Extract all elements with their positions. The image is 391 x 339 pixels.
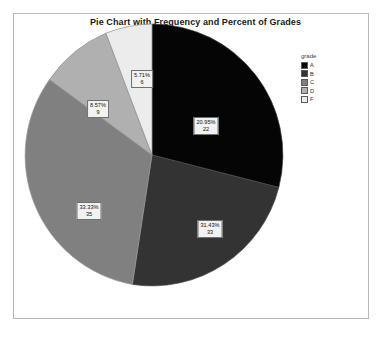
legend-swatch-d: [301, 87, 308, 94]
pie-chart-plot-area: 20.95% 22 31.43% 33 33.33% 35 8.57% 9 5.…: [0, 0, 391, 339]
slice-c-percent: 33.33%: [80, 204, 99, 211]
legend-item-f[interactable]: F: [301, 95, 349, 103]
legend-item-a[interactable]: A: [301, 61, 349, 69]
slice-d-count: 9: [90, 109, 106, 116]
slice-c-count: 35: [80, 211, 99, 218]
slice-b-count: 33: [201, 229, 220, 236]
legend-swatch-f: [301, 96, 308, 103]
legend-item-b[interactable]: B: [301, 70, 349, 78]
slice-f-percent: 5.71%: [134, 72, 150, 79]
slice-d-percent: 8.57%: [90, 102, 106, 109]
pie-svg: [20, 23, 288, 291]
slice-a-percent: 20.95%: [197, 119, 216, 126]
slice-label-b: 31.43% 33: [198, 220, 223, 238]
legend-item-d[interactable]: D: [301, 87, 349, 95]
legend-label-b: B: [310, 71, 314, 77]
legend-label-f: F: [310, 96, 313, 102]
legend-item-c[interactable]: C: [301, 78, 349, 86]
legend-swatch-b: [301, 70, 308, 77]
slice-f-count: 6: [134, 79, 150, 86]
legend: grade A B C D F: [301, 53, 349, 104]
legend-label-a: A: [310, 62, 314, 68]
legend-title: grade: [301, 53, 349, 59]
pie-slices: [25, 24, 283, 286]
legend-label-c: C: [310, 79, 314, 85]
slice-label-d: 8.57% 9: [87, 100, 109, 118]
slice-label-f: 5.71% 6: [131, 70, 153, 88]
slice-label-c: 33.33% 35: [77, 202, 102, 220]
legend-swatch-a: [301, 62, 308, 69]
slice-a-count: 22: [197, 126, 216, 133]
legend-label-d: D: [310, 88, 314, 94]
slice-label-a: 20.95% 22: [194, 117, 219, 135]
legend-swatch-c: [301, 79, 308, 86]
slice-b-percent: 31.43%: [201, 222, 220, 229]
